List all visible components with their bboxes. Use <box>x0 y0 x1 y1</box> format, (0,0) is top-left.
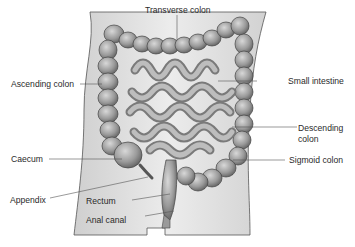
label-transverse-colon: Transverse colon <box>145 5 211 15</box>
label-sigmoid-colon: Sigmoid colon <box>289 155 343 165</box>
label-rectum: Rectum <box>86 196 116 206</box>
label-appendix: Appendix <box>10 195 46 205</box>
label-ascending-colon: Ascending colon <box>11 79 74 89</box>
label-small-intestine: Small intestine <box>288 76 344 86</box>
label-anal-canal: Anal canal <box>86 215 126 225</box>
label-descending-colon-line1: Descending <box>298 123 343 133</box>
label-caecum: Caecum <box>11 154 43 164</box>
caecum <box>114 142 142 168</box>
label-descending-colon-line2: colon <box>298 134 319 144</box>
